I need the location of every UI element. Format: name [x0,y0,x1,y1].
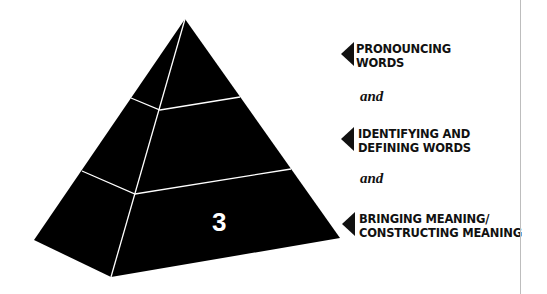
label-line: DEFINING WORDS [358,141,471,155]
connector-and: and [360,88,383,105]
pyramid-level-number: 3 [212,207,226,238]
level-label-identifying: IDENTIFYING AND DEFINING WORDS [358,127,471,155]
arrow-left-icon [341,42,354,66]
level-label-meaning: BRINGING MEANING/ CONSTRUCTING MEANING [359,212,522,240]
connector-and: and [360,170,383,187]
label-line: BRINGING MEANING/ [359,212,522,226]
arrow-left-icon [341,127,354,151]
arrow-left-icon [342,212,355,236]
label-line: WORDS [356,56,451,70]
label-line: IDENTIFYING AND [358,127,471,141]
page-divider-line [520,0,521,294]
pyramid-body [34,19,340,277]
label-line: CONSTRUCTING MEANING [359,226,522,240]
label-line: PRONOUNCING [356,42,451,56]
level-label-pronouncing: PRONOUNCING WORDS [356,42,451,70]
